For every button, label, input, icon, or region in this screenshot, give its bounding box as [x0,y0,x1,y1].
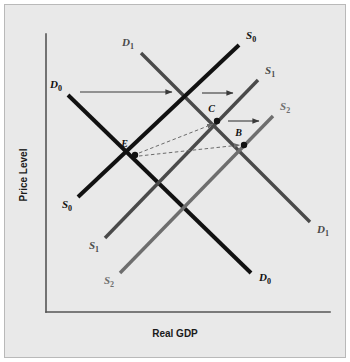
equilibrium-arrow-e-to-b [139,145,240,156]
curve-label-d1-start: D1 [121,36,134,51]
equilibrium-label-e: E [120,138,128,149]
curve-label-d0-start: D0 [49,78,62,93]
curve-label-s0-end: S0 [246,29,256,44]
curve-label-d1-end: D1 [316,223,329,238]
curve-label-s0-start: S0 [62,198,72,213]
curve-s2 [120,116,273,273]
figure-page: D0D0D1D1S0S0S1S1S2S2 ECB Real GDP Price … [0,0,350,362]
equilibrium-label-c: C [208,103,215,114]
equilibrium-point-c [214,118,220,124]
curve-s1 [105,80,258,238]
x-axis-title: Real GDP [152,328,198,339]
y-axis-title: Price Level [18,148,29,201]
curve-label-s1-end: S1 [265,64,275,79]
curve-d1 [141,53,310,222]
curve-label-d0-end: D0 [258,271,271,286]
equilibrium-point-b [241,142,247,148]
curve-label-s2-start: S2 [104,274,114,289]
equilibrium-point-e [132,152,138,158]
curves-group [68,45,310,273]
curve-label-s2-end: S2 [280,100,290,115]
as-ad-diagram: D0D0D1D1S0S0S1S1S2S2 ECB Real GDP Price … [0,0,350,362]
curve-labels-group: D0D0D1D1S0S0S1S1S2S2 [49,29,329,289]
curve-label-s1-start: S1 [89,239,99,254]
axes [46,34,330,312]
equilibrium-label-b: B [234,127,242,138]
